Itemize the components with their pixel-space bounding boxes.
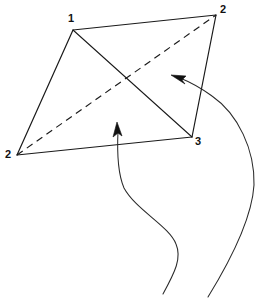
edge-2-to-3 (192, 15, 216, 137)
vertex-label-top-left: 1 (68, 13, 74, 24)
edge-1-to-2 (73, 15, 216, 30)
geometry-figure: 1 2 3 2 (0, 0, 262, 298)
pointer-left-curve (118, 131, 179, 294)
vertex-label-top-right: 2 (220, 4, 226, 15)
diagonal-solid-1-to-3 (73, 30, 192, 137)
vertex-label-bottom-right: 3 (195, 136, 201, 147)
pointer-right-curve (180, 78, 254, 297)
edge-3-to-2 (17, 137, 192, 155)
pointer-right-group (171, 75, 254, 297)
figure-canvas (0, 0, 262, 298)
vertex-label-bottom-left: 2 (5, 149, 11, 160)
pointer-left-group (113, 122, 178, 294)
edge-2-to-1 (17, 30, 73, 155)
